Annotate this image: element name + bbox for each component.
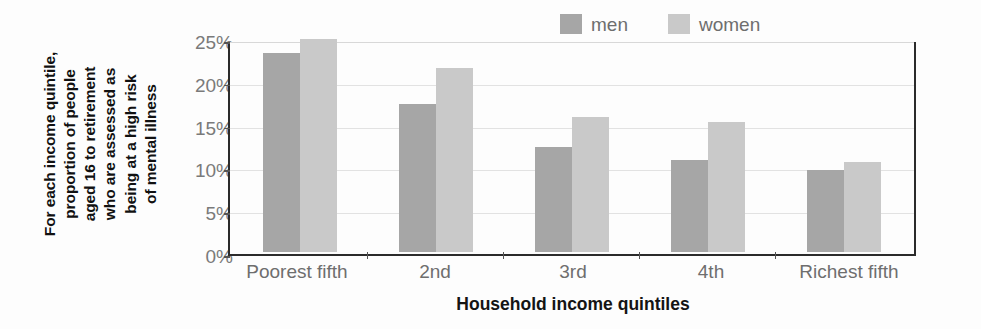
legend-swatch-men <box>560 14 582 34</box>
legend-item-men: men <box>560 14 628 34</box>
x-tick-label: Poorest fifth <box>228 262 366 281</box>
x-tick-mark <box>775 252 777 259</box>
bar-groups <box>232 42 912 252</box>
x-tick-label: 4th <box>642 262 780 281</box>
legend-label-women: women <box>699 15 760 34</box>
x-axis-tick-labels: Poorest fifth2nd3rd4thRichest fifth <box>228 262 918 281</box>
x-axis-title: Household income quintiles <box>228 296 918 314</box>
plot-area: 0%5%10%15%20%25% <box>191 42 921 264</box>
bar-men <box>263 53 300 252</box>
y-tick-mark <box>224 213 230 215</box>
bar-women <box>436 68 473 252</box>
bar-men <box>535 147 572 252</box>
bar-women <box>300 39 337 252</box>
x-tick-label: 3rd <box>504 262 642 281</box>
y-tick-mark <box>224 170 230 172</box>
chart-canvas: For each income quintile, proportion of … <box>0 0 981 329</box>
axis-area <box>228 42 916 256</box>
chart-legend: men women <box>560 14 760 34</box>
y-axis-caption: For each income quintile, proportion of … <box>12 8 187 280</box>
y-tick-mark <box>224 85 230 87</box>
x-tick-mark <box>367 252 369 259</box>
bar-group <box>640 42 776 252</box>
plot-frame <box>228 42 916 256</box>
y-tick-mark <box>224 42 230 44</box>
x-tick-mark <box>503 252 505 259</box>
legend-label-men: men <box>591 15 628 34</box>
y-axis-caption-text: For each income quintile, proportion of … <box>39 10 160 278</box>
x-tick-label: Richest fifth <box>780 262 918 281</box>
legend-item-women: women <box>668 14 760 34</box>
bar-group <box>232 42 368 252</box>
legend-swatch-women <box>668 14 690 34</box>
bar-men <box>671 160 708 252</box>
bar-group <box>368 42 504 252</box>
x-tick-label: 2nd <box>366 262 504 281</box>
x-tick-mark <box>639 252 641 259</box>
bar-men <box>399 104 436 252</box>
bar-men <box>807 170 844 252</box>
bar-women <box>708 122 745 252</box>
bar-group <box>776 42 912 252</box>
y-tick-mark <box>224 256 230 258</box>
y-tick-mark <box>224 128 230 130</box>
bar-women <box>572 117 609 252</box>
bar-group <box>504 42 640 252</box>
bar-women <box>844 162 881 252</box>
